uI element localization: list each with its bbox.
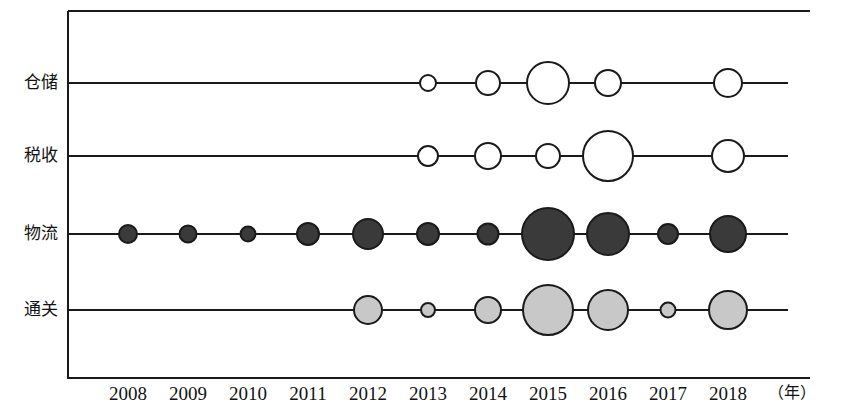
bubble-通关-2017 (661, 303, 676, 318)
x-tick-label-2017: 2017 (649, 383, 687, 404)
bubble-仓储-2016 (595, 70, 621, 96)
bubble-物流-2018 (710, 216, 746, 252)
x-tick-label-2015: 2015 (529, 383, 567, 404)
x-tick-label-2008: 2008 (109, 383, 147, 404)
x-tick-label-2012: 2012 (349, 383, 387, 404)
bubble-税收-2016 (583, 131, 633, 181)
bubble-物流-2012 (353, 219, 383, 249)
bubble-税收-2015 (536, 144, 560, 168)
bubble-通关-2018 (709, 291, 747, 329)
category-labels-layer: 仓储税收物流通关 (24, 72, 58, 319)
bubble-通关-2014 (475, 297, 501, 323)
frame-axes (68, 11, 810, 378)
bubble-仓储-2014 (476, 71, 500, 95)
category-label-通关: 通关 (24, 299, 58, 319)
bubble-物流-2017 (658, 224, 678, 244)
x-tick-label-2014: 2014 (469, 383, 508, 404)
x-tick-label-2018: 2018 (709, 383, 747, 404)
bubbles-layer (119, 62, 747, 335)
category-label-物流: 物流 (24, 223, 58, 243)
bubble-timeline-chart: 2008200920102011201220132014201520162017… (0, 0, 849, 414)
bubble-税收-2014 (475, 143, 501, 169)
category-rows-layer (68, 83, 788, 310)
bubble-通关-2015 (523, 285, 573, 335)
x-tick-label-2013: 2013 (409, 383, 447, 404)
bubble-物流-2013 (417, 223, 439, 245)
category-label-仓储: 仓储 (24, 72, 58, 92)
bubble-仓储-2013 (420, 75, 436, 91)
x-tick-label-2011: 2011 (289, 383, 326, 404)
bubble-仓储-2015 (527, 62, 569, 104)
category-label-税收: 税收 (24, 145, 58, 165)
bubble-物流-2009 (180, 226, 197, 243)
x-tick-label-2009: 2009 (169, 383, 207, 404)
bubble-物流-2010 (241, 227, 256, 242)
bubble-物流-2015 (522, 208, 574, 260)
x-tick-label-2010: 2010 (229, 383, 267, 404)
bubble-物流-2008 (119, 225, 137, 243)
bubble-物流-2014 (478, 224, 499, 245)
bubble-通关-2016 (588, 290, 628, 330)
x-tick-label-2016: 2016 (589, 383, 627, 404)
bubble-物流-2011 (297, 223, 319, 245)
bubble-物流-2016 (587, 213, 629, 255)
bubble-税收-2018 (712, 140, 744, 172)
bubble-仓储-2018 (714, 69, 742, 97)
x-axis-unit-label: （年） (768, 383, 816, 402)
x-axis-ticks-layer: 2008200920102011201220132014201520162017… (109, 383, 747, 404)
chart-canvas: 2008200920102011201220132014201520162017… (0, 0, 849, 414)
chart-frame (68, 11, 810, 378)
bubble-通关-2012 (354, 296, 382, 324)
bubble-通关-2013 (421, 303, 435, 317)
bubble-税收-2013 (418, 146, 438, 166)
